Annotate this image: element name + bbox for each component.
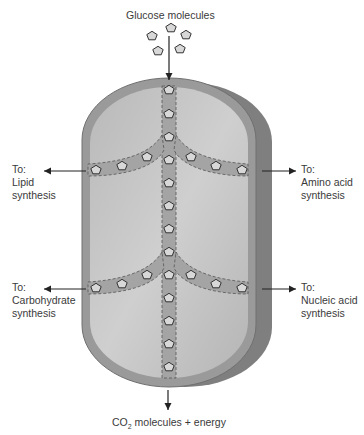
co2-label: CO2 molecules + energy	[112, 416, 226, 433]
nucleic-synthesis: synthesis	[301, 307, 358, 320]
lipid-name: Lipid	[12, 176, 56, 189]
carb-name: Carbohydrate	[12, 294, 76, 307]
carb-to: To:	[12, 281, 76, 294]
amino-to: To:	[301, 163, 353, 176]
lipid-label: To: Lipid synthesis	[12, 163, 56, 202]
amino-synthesis: synthesis	[301, 189, 353, 202]
amino-label: To: Amino acid synthesis	[301, 163, 353, 202]
glucose-molecule	[166, 23, 176, 32]
co2-prefix: CO	[112, 416, 128, 428]
carb-synthesis: synthesis	[12, 307, 76, 320]
glucose-label: Glucose molecules	[126, 9, 215, 22]
glucose-molecule	[147, 31, 157, 40]
lipid-to: To:	[12, 163, 56, 176]
glucose-molecule	[175, 44, 185, 53]
glucose-molecule	[181, 30, 191, 39]
lipid-synthesis: synthesis	[12, 189, 56, 202]
amino-name: Amino acid	[301, 176, 353, 189]
carb-label: To: Carbohydrate synthesis	[12, 281, 76, 320]
nucleic-label: To: Nucleic acid synthesis	[301, 281, 358, 320]
co2-suffix: molecules + energy	[132, 416, 226, 428]
glucose-molecule	[153, 46, 163, 55]
nucleic-name: Nucleic acid	[301, 294, 358, 307]
metabolism-diagram	[0, 0, 364, 435]
nucleic-to: To:	[301, 281, 358, 294]
